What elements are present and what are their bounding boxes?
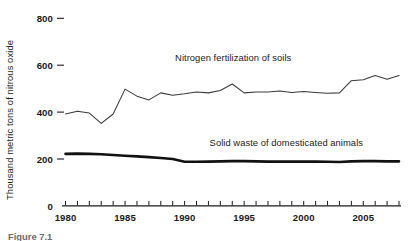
y-tick-label-200: 200 — [37, 154, 53, 165]
x-tick-label-2000: 2000 — [293, 212, 315, 223]
y-tick-label-400: 400 — [37, 107, 53, 118]
figure-container: Thousand metric tons of nitrous oxide 80… — [0, 0, 415, 241]
chart-background — [0, 0, 415, 241]
y-tick-label-800: 800 — [37, 13, 53, 24]
series-label-nitrogen-fertilization: Nitrogen fertilization of soils — [175, 52, 291, 63]
y-tick-label-600: 600 — [37, 60, 53, 71]
y-axis-label: Thousand metric tons of nitrous oxide — [4, 40, 15, 200]
x-tick-label-1985: 1985 — [114, 212, 136, 223]
y-tick-label-0: 0 — [48, 201, 53, 212]
x-tick-label-1980: 1980 — [55, 212, 77, 223]
series-label-solid-waste: Solid waste of domesticated animals — [210, 137, 364, 148]
x-tick-label-1990: 1990 — [174, 212, 196, 223]
line-chart: Thousand metric tons of nitrous oxide 80… — [0, 0, 415, 241]
x-tick-label-1995: 1995 — [233, 212, 255, 223]
figure-caption: Figure 7.1 — [8, 231, 52, 241]
x-tick-label-2005: 2005 — [352, 212, 374, 223]
